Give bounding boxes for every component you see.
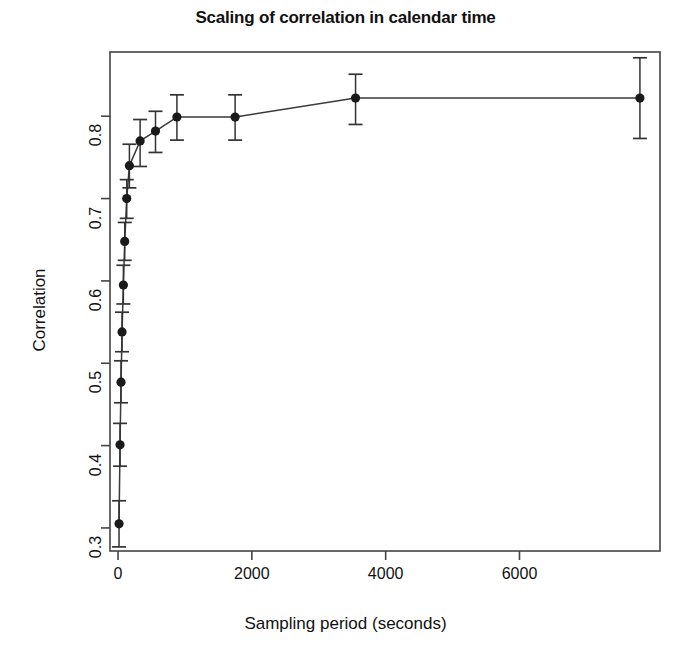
x-tick-label: 0 (114, 565, 123, 583)
data-point-marker (151, 126, 160, 135)
data-point-marker (172, 112, 181, 121)
y-tick-label: 0.3 (87, 527, 105, 567)
data-point-marker (114, 519, 123, 528)
data-point-marker (120, 237, 129, 246)
x-tick-label: 6000 (502, 565, 538, 583)
data-point-marker (231, 112, 240, 121)
data-point-marker (351, 94, 360, 103)
data-point-marker (635, 94, 644, 103)
y-tick-label: 0.7 (87, 198, 105, 238)
x-axis-label: Sampling period (seconds) (0, 614, 691, 634)
x-tick-label: 4000 (368, 565, 404, 583)
data-line (119, 98, 640, 524)
data-point-marker (117, 327, 126, 336)
data-point-marker (116, 378, 125, 387)
y-axis-label: Correlation (30, 210, 50, 410)
data-point-marker (115, 440, 124, 449)
data-point-marker (122, 194, 131, 203)
chart-figure: Scaling of correlation in calendar time … (0, 0, 691, 661)
y-tick-label: 0.4 (87, 445, 105, 485)
x-tick-label: 2000 (234, 565, 270, 583)
y-tick-label: 0.5 (87, 362, 105, 402)
plot-frame (110, 52, 660, 551)
y-tick-label: 0.8 (87, 115, 105, 155)
y-tick-label: 0.6 (87, 280, 105, 320)
data-point-marker (125, 161, 134, 170)
data-point-marker (136, 136, 145, 145)
data-point-marker (119, 280, 128, 289)
